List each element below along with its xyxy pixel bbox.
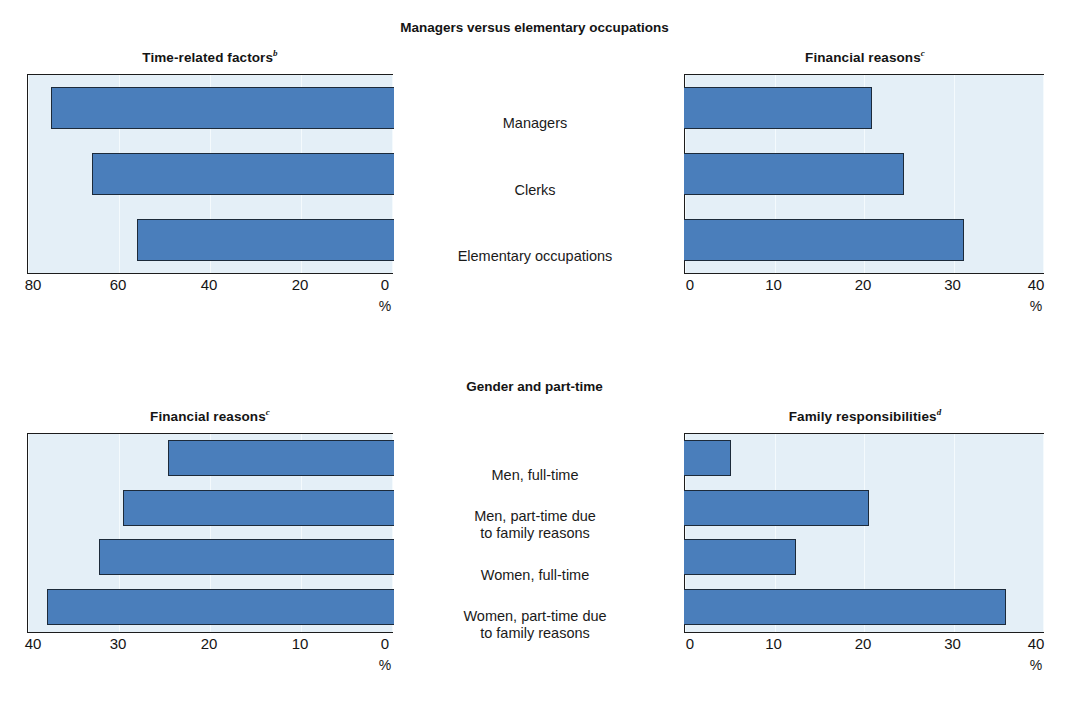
axis-tick: 60 <box>110 276 127 293</box>
category-labels-bottom: Men, full-timeMen, part-time dueto famil… <box>400 450 670 650</box>
axis-unit-label: % <box>379 657 391 673</box>
axis-top-right: 010203040% <box>684 274 1044 304</box>
bar <box>99 539 394 575</box>
section-title-top: Managers versus elementary occupations <box>0 20 1069 35</box>
axis-bottom-left: 403020100% <box>27 633 393 663</box>
axis-tick: 30 <box>944 276 961 293</box>
axis-tick: 30 <box>944 635 961 652</box>
category-label: Men, part-time dueto family reasons <box>400 508 670 542</box>
bar <box>137 219 394 261</box>
bar <box>92 153 394 195</box>
axis-tick: 30 <box>110 635 127 652</box>
axis-bottom-right: 010203040% <box>684 633 1044 663</box>
bar <box>684 87 872 129</box>
axis-tick: 20 <box>292 276 309 293</box>
axis-tick: 20 <box>855 276 872 293</box>
chart-title-top-right: Financial reasonsc <box>665 48 1065 65</box>
category-label: Clerks <box>400 182 670 199</box>
bar <box>168 440 394 476</box>
chart-bottom-right: Family responsibilitiesd 010203040% <box>665 407 1065 663</box>
axis-tick: 10 <box>292 635 309 652</box>
bar <box>684 153 904 195</box>
category-label: Elementary occupations <box>400 248 670 265</box>
axis-tick: 20 <box>855 635 872 652</box>
axis-unit-label: % <box>379 298 391 314</box>
bar <box>47 589 394 625</box>
axis-unit-label: % <box>1030 657 1042 673</box>
chart-title-bottom-left-superscript: c <box>266 407 270 417</box>
chart-title-bottom-left: Financial reasonsc <box>10 407 410 424</box>
axis-tick: 40 <box>25 635 42 652</box>
plot-area-bottom-right <box>684 433 1044 633</box>
chart-title-bottom-right: Family responsibilitiesd <box>665 407 1065 424</box>
axis-tick: 10 <box>765 635 782 652</box>
gridline <box>28 75 29 273</box>
chart-title-top-left-superscript: b <box>273 48 278 58</box>
bar <box>684 589 1006 625</box>
axis-tick: 0 <box>381 635 389 652</box>
chart-top-right: Financial reasonsc 010203040% <box>665 48 1065 304</box>
bar <box>51 87 394 129</box>
category-label: Managers <box>400 115 670 132</box>
axis-tick: 40 <box>1028 276 1045 293</box>
axis-tick: 0 <box>686 276 694 293</box>
chart-title-bottom-right-text: Family responsibilities <box>789 409 937 424</box>
chart-title-top-right-superscript: c <box>921 48 925 58</box>
section-title-bottom: Gender and part-time <box>0 379 1069 394</box>
plot-area-bottom-left <box>27 433 393 633</box>
axis-tick: 40 <box>201 276 218 293</box>
axis-top-left: 806040200% <box>27 274 393 304</box>
chart-title-top-left: Time-related factorsb <box>10 48 410 65</box>
chart-title-top-right-text: Financial reasons <box>805 50 921 65</box>
chart-title-top-left-text: Time-related factors <box>142 50 273 65</box>
chart-bottom-left: Financial reasonsc 403020100% <box>10 407 410 663</box>
gridline <box>1043 434 1044 632</box>
bar <box>684 539 796 575</box>
plot-area-top-left <box>27 74 393 274</box>
axis-tick: 20 <box>201 635 218 652</box>
axis-tick: 80 <box>25 276 42 293</box>
bar <box>684 219 964 261</box>
axis-tick: 40 <box>1028 635 1045 652</box>
axis-tick: 0 <box>381 276 389 293</box>
axis-tick: 0 <box>686 635 694 652</box>
bar <box>684 440 731 476</box>
chart-top-left: Time-related factorsb 806040200% <box>10 48 410 304</box>
gridline <box>28 434 29 632</box>
gridline <box>1043 75 1044 273</box>
bar <box>684 490 869 526</box>
chart-title-bottom-right-superscript: d <box>937 407 942 417</box>
category-label: Women, full-time <box>400 567 670 584</box>
category-label: Women, part-time dueto family reasons <box>400 608 670 642</box>
axis-tick: 10 <box>765 276 782 293</box>
axis-unit-label: % <box>1030 298 1042 314</box>
bar <box>123 490 394 526</box>
chart-title-bottom-left-text: Financial reasons <box>150 409 266 424</box>
category-labels-top: ManagersClerksElementary occupations <box>400 90 670 290</box>
category-label: Men, full-time <box>400 467 670 484</box>
plot-area-top-right <box>684 74 1044 274</box>
